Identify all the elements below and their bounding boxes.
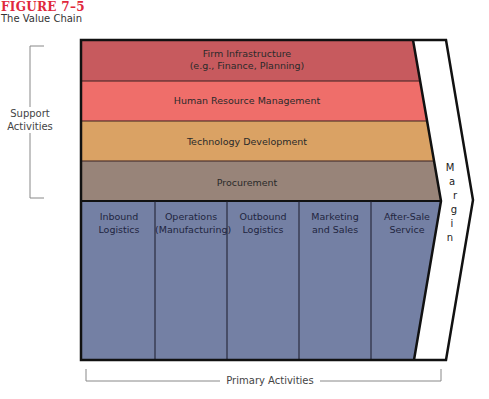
operations-label: Operations (Manufacturing) <box>155 210 227 236</box>
marketing-sales-label: Marketing and Sales <box>299 210 371 236</box>
inbound-logistics-label: Inbound Logistics <box>83 210 155 236</box>
procurement-label: Procurement <box>81 177 413 189</box>
support-activities-label: Support Activities <box>2 107 58 133</box>
primary-activities-label: Primary Activities <box>220 375 320 386</box>
hrm-label: Human Resource Management <box>81 95 413 107</box>
outbound-logistics-label: Outbound Logistics <box>227 210 299 236</box>
firm-infrastructure-label: Firm Infrastructure (e.g., Finance, Plan… <box>81 48 413 72</box>
technology-development-label: Technology Development <box>81 136 413 148</box>
after-sale-service-label: After-Sale Service <box>371 210 443 236</box>
